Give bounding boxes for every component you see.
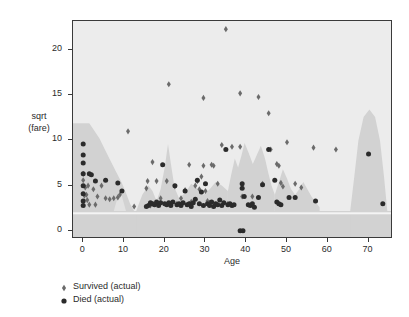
chart-root: sqrt (fare) 05101520 010203040506070 Age… bbox=[0, 0, 409, 317]
series-circle bbox=[81, 142, 386, 234]
x-tick-label: 0 bbox=[69, 244, 95, 254]
x-tick-label: 60 bbox=[314, 244, 340, 254]
x-tick-mark bbox=[164, 238, 165, 242]
circle-marker-icon bbox=[58, 293, 70, 305]
y-axis-title-line2: (fare) bbox=[10, 122, 68, 134]
y-axis-title-line1: sqrt bbox=[10, 110, 68, 122]
plot-area bbox=[72, 20, 392, 238]
y-tick-label: 5 bbox=[28, 179, 62, 189]
x-tick-mark bbox=[327, 238, 328, 242]
x-tick-label: 70 bbox=[355, 244, 381, 254]
x-tick-mark bbox=[82, 238, 83, 242]
y-axis-title: sqrt (fare) bbox=[10, 110, 68, 134]
x-tick-mark bbox=[286, 238, 287, 242]
x-tick-label: 30 bbox=[191, 244, 217, 254]
plot-inner bbox=[73, 21, 391, 237]
legend-item-survived[interactable]: Survived (actual) bbox=[58, 280, 141, 292]
legend-item-died[interactable]: Died (actual) bbox=[58, 293, 141, 305]
x-tick-label: 10 bbox=[110, 244, 136, 254]
x-tick-mark bbox=[368, 238, 369, 242]
x-tick-label: 40 bbox=[232, 244, 258, 254]
x-axis-title: Age bbox=[72, 256, 392, 266]
y-tick-label: 15 bbox=[28, 88, 62, 98]
x-tick-label: 20 bbox=[151, 244, 177, 254]
x-tick-label: 50 bbox=[273, 244, 299, 254]
y-tick-label: 20 bbox=[28, 43, 62, 53]
y-tick-label: 10 bbox=[28, 133, 62, 143]
legend-label: Survived (actual) bbox=[73, 281, 141, 291]
data-points-layer bbox=[73, 21, 392, 238]
y-tick-label: 0 bbox=[28, 224, 62, 234]
x-tick-mark bbox=[123, 238, 124, 242]
diamond-marker-icon bbox=[58, 280, 70, 292]
x-tick-mark bbox=[204, 238, 205, 242]
chart-legend: Survived (actual)Died (actual) bbox=[58, 280, 141, 306]
legend-label: Died (actual) bbox=[73, 294, 124, 304]
x-tick-mark bbox=[245, 238, 246, 242]
